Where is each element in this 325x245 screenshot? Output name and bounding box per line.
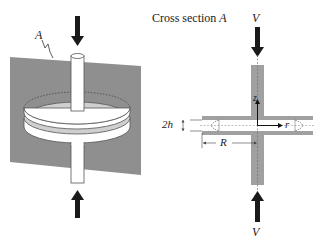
plane-a-label: A [35,28,42,43]
z-axis-label: z [253,92,257,103]
cross-section-title: Cross section A [152,11,227,26]
gap-label: 2h [162,118,173,130]
rod-bottom [71,140,84,183]
radius-label: R [220,136,227,148]
r-axis-label: r [285,118,289,130]
bottom-velocity-label: V [252,225,259,240]
cross-section-title-var: A [219,11,226,25]
top-velocity-label: V [252,11,259,26]
bottom-arrow-right [251,191,264,222]
gap-dimension [182,120,203,131]
cross-section-title-prefix: Cross section [152,11,219,25]
radius-dimension [202,133,257,148]
plane-a-leader [42,40,53,58]
top-arrow-right [251,27,264,57]
top-arrow-left [71,16,84,46]
bottom-arrow-left [71,190,84,218]
rod-top [71,54,84,112]
